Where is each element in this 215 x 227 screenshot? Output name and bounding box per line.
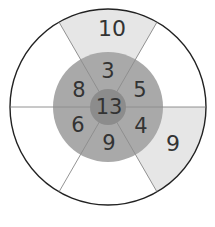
middle-value-bottom: 9 xyxy=(102,131,115,155)
number-wheel: 10 9 3 5 4 9 6 8 13 xyxy=(0,0,215,227)
middle-value-top: 3 xyxy=(101,59,114,83)
middle-value-bottom-left: 6 xyxy=(71,113,84,137)
middle-value-top-left: 8 xyxy=(72,78,85,102)
middle-value-bottom-right: 4 xyxy=(134,114,147,138)
middle-value-top-right: 5 xyxy=(133,78,146,102)
center-value: 13 xyxy=(96,95,123,119)
outer-value-top: 10 xyxy=(98,16,126,41)
outer-value-bottom-right: 9 xyxy=(166,131,180,156)
